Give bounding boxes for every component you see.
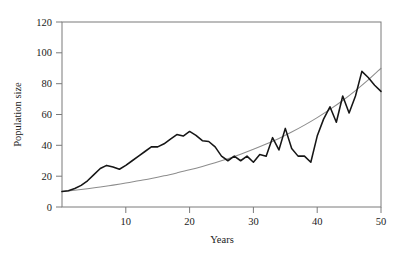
series-deterministic-exponential — [62, 68, 381, 191]
x-axis-tick-labels: 10 20 30 40 50 — [121, 216, 387, 227]
x-axis-title: Years — [210, 234, 233, 245]
y-axis-ticks — [56, 22, 62, 207]
y-tick-label-100: 100 — [36, 47, 52, 58]
x-tick-label-50: 50 — [376, 216, 387, 227]
y-tick-label-0: 0 — [47, 202, 52, 213]
y-tick-label-80: 80 — [42, 78, 53, 89]
x-tick-label-10: 10 — [121, 216, 132, 227]
chart-figure: 0 20 40 60 80 100 120 10 20 30 40 50 Yea… — [0, 0, 404, 257]
y-tick-label-60: 60 — [42, 109, 53, 120]
y-axis-title: Population size — [12, 82, 23, 147]
y-tick-label-40: 40 — [42, 140, 53, 151]
x-tick-label-20: 20 — [184, 216, 195, 227]
y-tick-label-20: 20 — [42, 171, 53, 182]
x-tick-label-30: 30 — [248, 216, 259, 227]
y-axis-tick-labels: 0 20 40 60 80 100 120 — [36, 17, 52, 213]
population-growth-chart: 0 20 40 60 80 100 120 10 20 30 40 50 Yea… — [0, 0, 404, 257]
series-stochastic-population — [62, 71, 381, 191]
y-tick-label-120: 120 — [36, 17, 52, 28]
x-axis-ticks — [126, 207, 381, 213]
x-tick-label-40: 40 — [312, 216, 323, 227]
